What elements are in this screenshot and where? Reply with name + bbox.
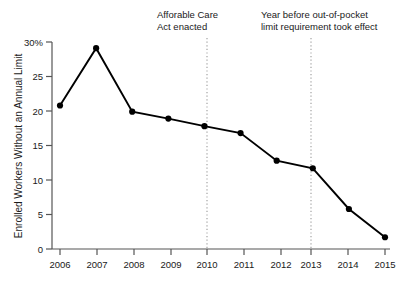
x-tick-label-2006: 2006 xyxy=(49,259,70,270)
y-tick-label-15: 15 xyxy=(32,140,43,151)
x-tick-label-2009: 2009 xyxy=(160,259,181,270)
annotation-oop: Year before out-of-pocket limit requirem… xyxy=(261,9,378,33)
y-tick-label-25: 25 xyxy=(32,71,43,82)
annotation-oop-line2: limit requirement took effect xyxy=(261,21,378,33)
data-point-2012 xyxy=(274,158,280,164)
x-tick-label-2012: 2012 xyxy=(270,259,291,270)
x-tick-label-2010: 2010 xyxy=(196,259,217,270)
annotation-aca-line2: Act enacted xyxy=(157,21,218,33)
y-axis-ticks xyxy=(46,42,52,249)
annotation-aca: Afforable Care Act enacted xyxy=(157,9,218,33)
y-tick-label-10: 10 xyxy=(32,175,43,186)
annotation-oop-line1: Year before out-of-pocket xyxy=(261,9,378,21)
annotation-aca-line1: Afforable Care xyxy=(157,9,218,21)
data-point-2014 xyxy=(346,206,352,212)
data-point-2015 xyxy=(382,234,388,240)
data-point-2011 xyxy=(237,130,243,136)
x-tick-label-2008: 2008 xyxy=(123,259,144,270)
data-point-2010 xyxy=(201,123,207,129)
y-tick-label-0: 0 xyxy=(38,244,43,255)
data-point-markers xyxy=(57,45,388,240)
x-tick-label-2014: 2014 xyxy=(337,259,358,270)
data-point-2006 xyxy=(57,102,63,108)
x-tick-label-2013: 2013 xyxy=(300,259,321,270)
y-tick-label-5: 5 xyxy=(38,209,43,220)
data-point-2009 xyxy=(165,115,171,121)
y-axis-title: Enrolled Workers Without an Annual Limit xyxy=(13,54,24,239)
x-tick-label-2007: 2007 xyxy=(86,259,107,270)
x-tick-label-2011: 2011 xyxy=(234,259,254,270)
x-axis-ticks xyxy=(60,249,385,255)
x-tick-label-2015: 2015 xyxy=(374,259,395,270)
data-point-2008 xyxy=(129,109,135,115)
data-point-2013 xyxy=(310,165,316,171)
chart-figure: Enrolled Workers Without an Annual Limit… xyxy=(0,0,410,284)
data-point-2007 xyxy=(93,45,99,51)
line-chart-plot: Enrolled Workers Without an Annual Limit… xyxy=(0,0,410,284)
y-tick-label-30: 30% xyxy=(24,37,44,48)
y-tick-label-20: 20 xyxy=(32,106,43,117)
data-series-line xyxy=(60,48,385,237)
